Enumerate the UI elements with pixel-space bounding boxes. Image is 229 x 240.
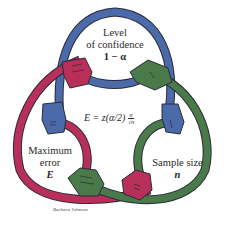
confidence-label: Level of confidence 1 − α (80, 27, 150, 63)
artist-signature: Barbara Johnson (53, 207, 88, 212)
error-symbol: E (20, 169, 80, 181)
sample-label: Sample size n (145, 157, 210, 181)
error-label-line1: Maximum (20, 145, 80, 157)
sample-symbol: n (145, 169, 210, 181)
margin-of-error-formula: E = z(α/2) σ √n (84, 112, 134, 125)
confidence-label-line2: of confidence (80, 39, 150, 51)
confidence-label-line1: Level (80, 27, 150, 39)
error-label: Maximum error E (20, 145, 80, 181)
formula-fraction: σ √n (128, 112, 134, 125)
error-label-line2: error (20, 157, 80, 169)
sample-label-line1: Sample size (145, 157, 210, 169)
formula-numerator: σ (128, 112, 134, 119)
formula-denominator: √n (128, 119, 134, 125)
confidence-symbol: 1 − α (80, 51, 150, 63)
blue-fist-left (42, 102, 66, 134)
formula-lhs: E = z(α/2) (84, 112, 125, 123)
blue-fist-right (162, 104, 184, 134)
